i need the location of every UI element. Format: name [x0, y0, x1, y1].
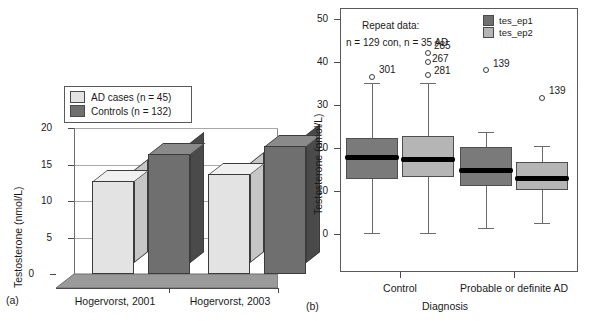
- panel-a-tag: (a): [6, 294, 19, 306]
- panel-a-tick-15: [68, 165, 74, 166]
- legend-label-tes-ep2: tes_ep2: [499, 27, 533, 38]
- panel-a-bar-chart: Testosterone (nmol/L) AD cases (n = 45) …: [0, 0, 300, 321]
- outlier-label-139-ep2: 139: [549, 85, 566, 96]
- outlier-label-267: 267: [432, 53, 449, 64]
- outlier-point-267: [425, 59, 431, 65]
- bar-ad-cases-2003: [208, 174, 250, 274]
- panel-b-tick-20: [334, 148, 340, 149]
- panel-b-box-plot: Testosterone (nmol/L) 50 40 30 20 10 0 R…: [300, 0, 592, 321]
- bar-ad-cases-2001: [92, 181, 134, 274]
- bar-controls-2001: [148, 154, 190, 274]
- whisker-cap-upper: [478, 132, 494, 133]
- legend-item-ad-cases: AD cases (n = 45): [70, 90, 186, 104]
- whisker-cap-lower: [534, 223, 550, 224]
- panel-a-category-label-2003: Hogervorst, 2003: [180, 295, 280, 307]
- panel-b-xlabel-ad: Probable or definite AD: [444, 282, 584, 294]
- bar-front-face: [148, 154, 190, 274]
- whisker-cap-upper: [534, 146, 550, 147]
- panel-b-legend: tes_ep1 tes_ep2: [483, 14, 533, 38]
- whisker-cap-lower: [420, 233, 436, 234]
- panel-b-ticklabel-40: 40: [302, 56, 328, 67]
- whisker-lower: [372, 179, 373, 234]
- median-line: [459, 168, 513, 173]
- legend-swatch-controls: [70, 105, 85, 117]
- panel-b-tag: (b): [306, 300, 319, 312]
- panel-a-ticklabel-20: 20: [26, 122, 52, 133]
- legend-swatch-ad-cases: [70, 91, 85, 103]
- whisker-upper: [428, 83, 429, 137]
- panel-a-ticklabel-5: 5: [26, 232, 52, 243]
- panel-b-note-line-1: Repeat data:: [362, 20, 419, 31]
- whisker-lower: [486, 186, 487, 228]
- median-line: [515, 176, 569, 181]
- panel-a-tick-20: [68, 128, 74, 129]
- box-iqr: [460, 147, 512, 186]
- whisker-lower: [428, 177, 429, 234]
- panel-b-xtick-ad: [514, 272, 515, 278]
- panel-b-xlabel-control: Control: [360, 282, 440, 294]
- median-line: [401, 157, 455, 162]
- outlier-label-139-ep1: 139: [493, 58, 510, 69]
- panel-b-tick-40: [334, 62, 340, 63]
- panel-a-category-label-2001: Hogervorst, 2001: [65, 295, 165, 307]
- panel-a-ticklabel-15: 15: [26, 159, 52, 170]
- outlier-point-139-ep2: [539, 95, 545, 101]
- outlier-label-301: 301: [379, 64, 396, 75]
- panel-b-tick-10: [334, 191, 340, 192]
- whisker-cap-upper: [420, 83, 436, 84]
- figure-root: Testosterone (nmol/L) AD cases (n = 45) …: [0, 0, 592, 321]
- panel-b-ticklabel-50: 50: [302, 13, 328, 24]
- bar-front-face: [92, 181, 134, 274]
- outlier-label-285: 285: [434, 40, 451, 51]
- legend-swatch-tes-ep1: [483, 15, 494, 26]
- median-line: [345, 155, 399, 160]
- panel-a-tick-5: [68, 238, 74, 239]
- outlier-point-281: [425, 72, 431, 78]
- bar-front-face: [208, 174, 250, 274]
- legend-swatch-tes-ep2: [483, 27, 494, 38]
- panel-b-tick-0: [334, 234, 340, 235]
- whisker-cap-lower: [364, 233, 380, 234]
- outlier-label-281: 281: [434, 65, 451, 76]
- panel-a-tick-0: [50, 274, 56, 275]
- panel-a-ticklabel-10: 10: [26, 195, 52, 206]
- panel-b-ticklabel-10: 10: [302, 185, 328, 196]
- panel-b-xtick-control: [400, 272, 401, 278]
- panel-a-plot-area: 20 15 10 5 0: [56, 128, 278, 288]
- panel-a-legend: AD cases (n = 45) Controls (n = 132): [64, 86, 192, 123]
- outlier-point-139-ep1: [483, 67, 489, 73]
- panel-a-y-axis-line: [74, 128, 75, 274]
- whisker-cap-lower: [478, 228, 494, 229]
- legend-item-tes-ep1: tes_ep1: [483, 14, 533, 26]
- panel-b-ticklabel-20: 20: [302, 142, 328, 153]
- legend-item-controls: Controls (n = 132): [70, 104, 186, 118]
- panel-b-ticklabel-0: 0: [302, 228, 328, 239]
- outlier-point-285: [425, 50, 431, 56]
- panel-b-note-line-2: n = 129 con, n = 35 AD: [346, 37, 448, 48]
- whisker-cap-upper: [364, 83, 380, 84]
- panel-b-ticklabel-30: 30: [302, 99, 328, 110]
- outlier-point-301: [369, 74, 375, 80]
- panel-b-y-axis-title: Testosterone (nmol/L): [312, 113, 324, 215]
- panel-b-x-axis-title: Diagnosis: [422, 300, 468, 312]
- panel-b-tick-30: [334, 105, 340, 106]
- legend-label-ad-cases: AD cases (n = 45): [91, 92, 171, 103]
- legend-item-tes-ep2: tes_ep2: [483, 26, 533, 38]
- panel-a-ticklabel-0: 0: [8, 268, 34, 279]
- legend-label-controls: Controls (n = 132): [91, 106, 171, 117]
- legend-label-tes-ep1: tes_ep1: [499, 15, 533, 26]
- panel-a-xtick-right: [278, 288, 279, 293]
- panel-a-x-axis-line: [56, 288, 278, 289]
- whisker-lower: [542, 190, 543, 223]
- whisker-upper: [542, 146, 543, 163]
- panel-a-tick-10: [68, 201, 74, 202]
- panel-b-tick-50: [334, 19, 340, 20]
